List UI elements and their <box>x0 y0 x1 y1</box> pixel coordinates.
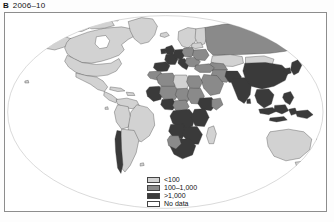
legend-item-nodata: No data <box>147 200 227 208</box>
island-sri-lanka <box>247 99 251 104</box>
panel-header: B 2006–10 <box>3 0 45 11</box>
legend-item-low: <100 <box>147 176 227 184</box>
figure-panel: B 2006–10 <box>0 0 334 222</box>
legend-label-low: <100 <box>164 176 180 184</box>
legend-label-nodata: No data <box>164 200 189 208</box>
legend-label-mid: 100–1,000 <box>164 184 197 192</box>
legend-swatch-high <box>147 193 160 199</box>
country-hispaniola <box>126 92 135 95</box>
panel-period-label: 2006–10 <box>13 1 46 10</box>
legend-swatch-mid <box>147 185 160 191</box>
country-baltics <box>191 43 203 49</box>
panel-letter: B <box>3 1 9 10</box>
legend-item-mid: 100–1,000 <box>147 184 227 192</box>
legend-label-high: >1,000 <box>164 192 186 200</box>
island-galapagos <box>105 107 108 110</box>
island-falklands <box>140 163 144 166</box>
country-ireland <box>161 49 166 54</box>
legend-swatch-low <box>147 177 160 183</box>
map-legend: <100 100–1,000 >1,000 No data <box>147 176 227 208</box>
legend-swatch-nodata <box>147 201 160 207</box>
island-hawaii <box>25 80 29 83</box>
legend-item-high: >1,000 <box>147 192 227 200</box>
